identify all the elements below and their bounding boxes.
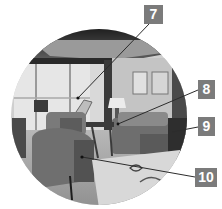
callout-label-10: 10 <box>195 168 217 187</box>
callout-label-8: 8 <box>198 80 215 99</box>
leader-dot-10 <box>80 155 83 158</box>
leader-dot-7 <box>76 96 79 99</box>
photo-content <box>0 0 222 209</box>
callout-label-7: 7 <box>144 5 163 24</box>
callout-label-9: 9 <box>198 117 215 136</box>
leader-dot-8 <box>117 123 120 126</box>
suite-photo <box>0 0 222 209</box>
